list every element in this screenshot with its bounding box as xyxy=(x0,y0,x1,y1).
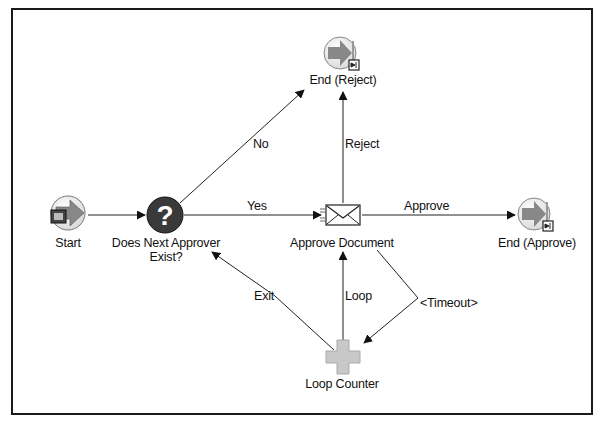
end-reject-node[interactable] xyxy=(324,37,359,70)
plus-icon xyxy=(326,340,360,374)
end-reject-label: End (Reject) xyxy=(309,73,376,87)
approve-document-label: Approve Document xyxy=(290,236,394,250)
decision-label-line1: Does Next Approver xyxy=(112,236,220,250)
edge-label-approve: Approve xyxy=(404,199,449,213)
decision-node[interactable]: ? xyxy=(147,197,183,233)
diagram-canvas: ? xyxy=(0,0,602,424)
loop-counter-label: Loop Counter xyxy=(305,377,378,391)
question-icon: ? xyxy=(156,200,173,231)
start-node[interactable] xyxy=(51,196,85,230)
decision-label-line2: Exist? xyxy=(150,250,183,264)
edge-label-exit: Exit xyxy=(254,289,274,303)
start-label: Start xyxy=(55,236,80,250)
envelope-notification-icon xyxy=(326,205,360,225)
end-approve-node[interactable] xyxy=(518,198,553,231)
approve-document-node[interactable] xyxy=(320,205,360,225)
loop-counter-node[interactable] xyxy=(326,340,360,374)
edge-label-yes: Yes xyxy=(247,199,267,213)
edge-label-loop: Loop xyxy=(345,289,372,303)
edge-label-reject: Reject xyxy=(345,137,379,151)
edge-no[interactable] xyxy=(180,90,304,203)
edge-label-no: No xyxy=(253,137,269,151)
edge-timeout[interactable] xyxy=(364,250,418,343)
edge-label-timeout: <Timeout> xyxy=(420,296,478,310)
end-approve-label: End (Approve) xyxy=(498,236,576,250)
